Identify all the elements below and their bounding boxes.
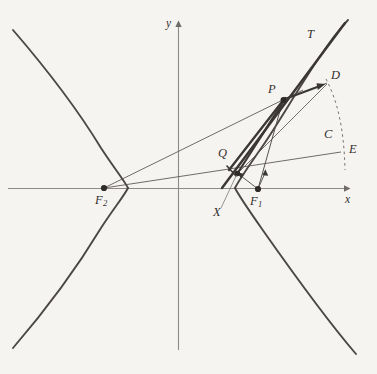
- dot-X: [235, 171, 240, 176]
- label-F1-letter: F: [250, 194, 258, 208]
- tangent-segment: [222, 23, 345, 188]
- label-F1: F1: [250, 195, 262, 209]
- x-axis-label: x: [345, 194, 350, 206]
- hyperbola-right-upper-arm: [235, 20, 348, 188]
- thick-segment-P-to-X: [237, 101, 284, 174]
- hyperbola-right-lower-arm: [235, 188, 356, 354]
- tangent-line-T: [222, 23, 345, 188]
- label-X: X: [213, 206, 221, 219]
- label-D: D: [331, 69, 340, 82]
- diagram-canvas: [0, 0, 377, 374]
- label-T: T: [307, 28, 314, 41]
- dashed-arc-C: [326, 79, 345, 170]
- dot-F1: [255, 186, 261, 192]
- dot-F2: [101, 185, 107, 191]
- label-P: P: [268, 83, 276, 96]
- label-Q: Q: [218, 147, 227, 160]
- label-F2-letter: F: [95, 193, 103, 207]
- dot-P: [281, 97, 287, 103]
- y-axis-label: y: [166, 18, 171, 30]
- segment-P-to-F1: [258, 100, 283, 189]
- hyperbola-left-upper-arm: [13, 30, 128, 188]
- point-dots: [101, 97, 287, 192]
- focal-rays-from-F2: [104, 90, 341, 188]
- segment-F1-to-X: [241, 176, 258, 189]
- y-axis-arrowhead: [175, 21, 181, 28]
- label-C: C: [324, 128, 332, 141]
- hyperbola-left-lower-arm: [13, 188, 128, 348]
- reflected-path-thick: [227, 98, 285, 176]
- axes-group: [8, 21, 351, 351]
- label-F2-subscript: 2: [103, 198, 107, 208]
- label-F1-subscript: 1: [258, 199, 262, 209]
- label-F2: F2: [95, 194, 107, 208]
- hyperbola-reflection-figure: y x F2 F1 P Q X D T C E: [0, 0, 377, 374]
- label-E: E: [349, 143, 357, 156]
- x-axis-arrowhead: [344, 185, 351, 191]
- vector-P-to-D-shaft: [285, 86, 320, 99]
